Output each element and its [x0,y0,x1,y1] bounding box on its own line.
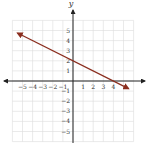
y-tick-label: −2 [61,97,70,104]
y-tick-label: 5 [66,27,70,34]
y-tick-label: −5 [61,128,70,135]
x-tick-label: −5 [18,83,27,90]
axes [4,10,145,143]
y-axis-label: y [68,0,74,8]
y-tick-label: −4 [61,117,70,124]
x-tick-label: 2 [91,83,95,90]
x-tick-label: −3 [38,83,47,90]
y-tick-label: 4 [66,37,70,44]
x-tick-label: 1 [81,83,85,90]
y-tick-label: 3 [66,47,70,54]
x-tick-label: −4 [28,83,37,90]
y-tick-label: 1 [66,67,70,74]
y-tick-label: −3 [61,107,70,114]
x-tick-label: 3 [101,83,105,90]
y-tick-label: −1 [61,87,70,94]
x-tick-label: 4 [111,83,115,90]
coordinate-plane: −5−4−3−2−1123454321−1−2−3−4−5 y [0,0,149,143]
x-tick-label: −2 [48,83,57,90]
